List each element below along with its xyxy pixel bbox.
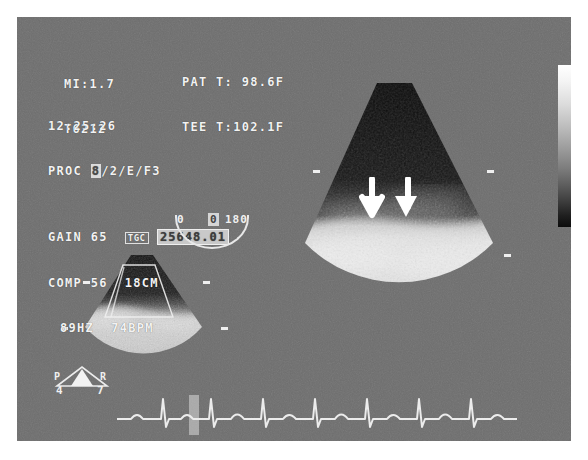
ecg-waveform <box>117 399 517 427</box>
sector-tick-right-2 <box>504 254 511 257</box>
scanner-display-panel: MI:1.7 T6212 PAT T: 98.6F TEE T:102.1F 1… <box>17 17 571 441</box>
gain-value[interactable]: 65 <box>91 230 108 244</box>
probe-right-label: R <box>100 371 106 382</box>
procedure-selected-value[interactable]: 8 <box>91 164 102 178</box>
procedure-label: PROC <box>48 164 91 178</box>
sector-tick-left-1 <box>313 170 320 173</box>
frame-rate: 89HZ <box>60 321 94 335</box>
timestamp-block: 12:25:26 PROC 8/2/E/F3 <box>48 89 161 209</box>
probe-left-value: 4 <box>56 384 63 397</box>
annotation-arrow-1 <box>358 177 388 223</box>
ecg-trace <box>117 393 517 439</box>
rotation-max-label: 180 <box>225 213 248 226</box>
tgc-tag[interactable]: TGC <box>125 232 149 244</box>
ultrasound-screenshot: MI:1.7 T6212 PAT T: 98.6F TEE T:102.1F 1… <box>0 0 588 460</box>
comp-label: COMP <box>48 276 82 290</box>
gain-label: GAIN <box>48 230 82 244</box>
rotation-current-angle[interactable]: 0 <box>208 213 219 226</box>
rate-row: 89HZ 74BPM <box>60 321 229 336</box>
patient-temperature: PAT T: 98.6F <box>182 75 284 90</box>
sector-tick-right-1 <box>487 170 494 173</box>
ecg-time-marker <box>189 395 199 435</box>
depth-value[interactable]: 18CM <box>125 276 159 290</box>
procedure-line[interactable]: PROC 8/2/E/F3 <box>48 164 161 179</box>
comp-value[interactable]: 56 <box>91 276 108 290</box>
procedure-rest: /2/E/F3 <box>101 164 161 178</box>
probe-right-value: 7 <box>97 384 104 397</box>
rotation-zero-label: 0 <box>177 213 185 226</box>
exam-timestamp: 12:25:26 <box>48 119 161 134</box>
annotation-arrow-2 <box>392 177 422 223</box>
temperature-block: PAT T: 98.6F TEE T:102.1F <box>182 45 284 165</box>
comp-row: COMP 56 18CM <box>48 276 229 291</box>
probe-posterior-label: P <box>54 371 60 382</box>
heart-rate: 74BPM <box>111 321 154 335</box>
grayscale-map-bar <box>558 65 571 227</box>
tee-probe-temperature: TEE T:102.1F <box>182 120 284 135</box>
